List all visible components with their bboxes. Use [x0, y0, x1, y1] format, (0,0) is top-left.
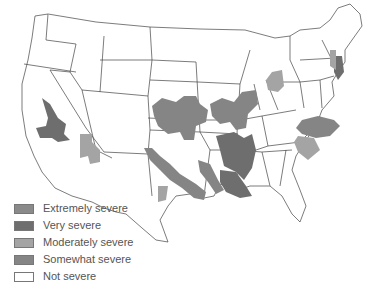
- legend-label: Extremely severe: [43, 203, 128, 214]
- legend: Extremely severe Very severe Moderately …: [14, 200, 134, 284]
- legend-item-somewhat-severe: Somewhat severe: [14, 251, 134, 268]
- legend-item-very-severe: Very severe: [14, 217, 134, 234]
- legend-label: Very severe: [43, 220, 101, 231]
- legend-swatch: [14, 221, 34, 231]
- legend-label: Not severe: [43, 271, 96, 282]
- legend-item-moderately-severe: Moderately severe: [14, 234, 134, 251]
- legend-item-not-severe: Not severe: [14, 268, 134, 284]
- legend-label: Moderately severe: [43, 237, 134, 248]
- legend-swatch: [14, 255, 34, 265]
- legend-label: Somewhat severe: [43, 254, 131, 265]
- legend-swatch: [14, 238, 34, 248]
- legend-swatch: [14, 204, 34, 214]
- region-sc: [294, 136, 320, 160]
- legend-swatch: [14, 272, 34, 282]
- legend-item-extremely-severe: Extremely severe: [14, 200, 134, 217]
